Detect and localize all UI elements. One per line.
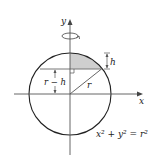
radius-label: r (87, 80, 92, 90)
offset-label: r − h (44, 77, 66, 87)
rotation-arrow-icon (62, 33, 80, 39)
equation-label: x² + y² = r² (96, 129, 148, 139)
y-axis-label: y (60, 16, 67, 26)
right-angle-marker-icon (70, 69, 74, 73)
sphere-cap-diagram: x y r h r − h x² + y² = r² (0, 0, 155, 164)
shaded-cap-region (70, 53, 102, 69)
y-axis-arrowhead-icon (68, 19, 73, 25)
x-axis-label: x (139, 96, 144, 106)
radius-line (70, 69, 102, 94)
height-label: h (110, 57, 116, 67)
